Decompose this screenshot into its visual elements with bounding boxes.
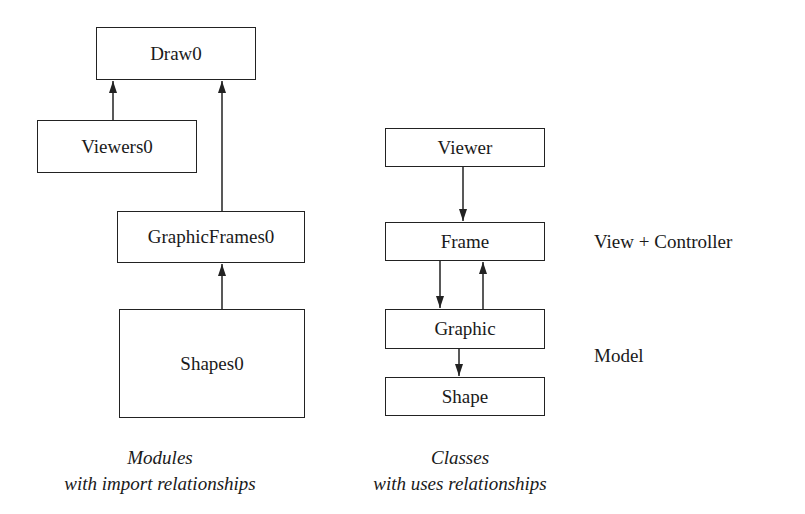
modules-caption-subtitle: with import relationships bbox=[20, 471, 300, 497]
modules-caption-title: Modules bbox=[20, 445, 300, 471]
modules-caption: Modules with import relationships bbox=[20, 445, 300, 497]
class-viewer-label: Viewer bbox=[438, 137, 493, 159]
module-graphicframes0: GraphicFrames0 bbox=[117, 211, 305, 263]
module-graphicframes0-label: GraphicFrames0 bbox=[148, 226, 275, 248]
class-viewer: Viewer bbox=[385, 128, 545, 167]
module-viewers0-label: Viewers0 bbox=[81, 136, 153, 158]
class-shape-label: Shape bbox=[442, 386, 488, 408]
module-viewers0: Viewers0 bbox=[37, 120, 197, 173]
layer-label-model: Model bbox=[594, 345, 644, 367]
module-shapes0: Shapes0 bbox=[119, 309, 305, 418]
classes-caption-subtitle: with uses relationships bbox=[325, 471, 595, 497]
module-draw0-label: Draw0 bbox=[150, 43, 202, 65]
class-graphic-label: Graphic bbox=[434, 318, 495, 340]
module-draw0: Draw0 bbox=[96, 27, 256, 80]
class-shape: Shape bbox=[385, 377, 545, 416]
class-frame: Frame bbox=[385, 222, 545, 261]
classes-caption-title: Classes bbox=[325, 445, 595, 471]
classes-caption: Classes with uses relationships bbox=[325, 445, 595, 497]
class-frame-label: Frame bbox=[441, 231, 490, 253]
module-shapes0-label: Shapes0 bbox=[180, 353, 243, 375]
layer-label-view-controller: View + Controller bbox=[594, 231, 732, 253]
class-graphic: Graphic bbox=[385, 309, 545, 349]
